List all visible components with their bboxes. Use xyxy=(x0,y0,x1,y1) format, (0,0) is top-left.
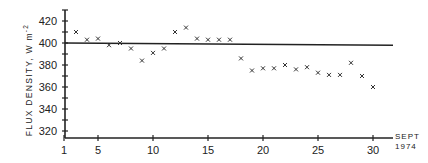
data-point-marker xyxy=(283,63,287,67)
data-point-marker xyxy=(173,30,177,34)
data-point-marker xyxy=(195,37,199,41)
data-point-marker xyxy=(371,85,375,89)
data-point-marker xyxy=(140,59,144,63)
data-point-marker xyxy=(151,51,155,55)
data-point-marker xyxy=(349,61,353,65)
data-point-marker xyxy=(74,30,78,34)
data-point-marker xyxy=(239,56,243,60)
data-point-marker xyxy=(360,74,364,78)
x-tick-label: 20 xyxy=(257,144,269,156)
reference-line xyxy=(65,43,393,45)
y-tick-label: 380 xyxy=(39,59,57,71)
data-point-marker xyxy=(305,65,309,69)
data-point-marker xyxy=(327,73,331,77)
x-tick-label: 5 xyxy=(95,144,101,156)
x-tick-label: 15 xyxy=(202,144,214,156)
axes: 320340360380400420151015202530 xyxy=(39,10,393,156)
flux-density-chart: 320340360380400420151015202530 FLUX DENS… xyxy=(0,0,428,163)
data-points xyxy=(74,26,375,89)
data-point-marker xyxy=(294,67,298,71)
data-point-marker xyxy=(316,71,320,75)
data-point-marker xyxy=(85,38,89,42)
x-axis-month-label: SEPT xyxy=(395,132,420,141)
y-tick-label: 420 xyxy=(39,15,57,27)
data-point-marker xyxy=(228,38,232,42)
data-point-marker xyxy=(206,38,210,42)
y-tick-label: 340 xyxy=(39,103,57,115)
data-point-marker xyxy=(96,37,100,41)
y-axis-title: FLUX DENSITY, W m-2 xyxy=(22,24,34,137)
data-point-marker xyxy=(217,38,221,42)
data-point-marker xyxy=(272,66,276,70)
x-tick-label: 25 xyxy=(312,144,324,156)
data-point-marker xyxy=(261,66,265,70)
data-point-marker xyxy=(129,47,133,51)
x-axis-year-label: 1974 xyxy=(395,142,417,151)
data-point-marker xyxy=(162,47,166,51)
x-tick-label: 10 xyxy=(147,144,159,156)
data-point-marker xyxy=(338,73,342,77)
x-tick-label: 1 xyxy=(61,144,67,156)
data-point-marker xyxy=(184,26,188,30)
y-tick-label: 320 xyxy=(39,125,57,137)
x-tick-label: 30 xyxy=(367,144,379,156)
y-tick-label: 400 xyxy=(39,37,57,49)
y-tick-label: 360 xyxy=(39,81,57,93)
data-point-marker xyxy=(250,69,254,73)
